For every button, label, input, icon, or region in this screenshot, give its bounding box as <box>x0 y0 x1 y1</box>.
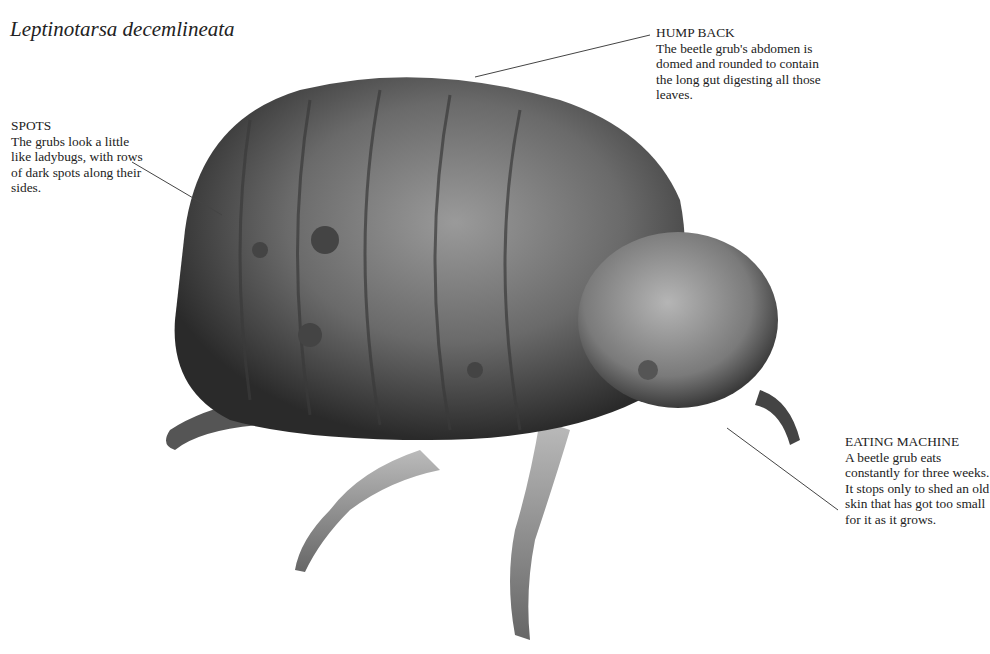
callout-body: The beetle grub's abdomen is domed and r… <box>656 41 826 103</box>
callout-body: The grubs look a little like ladybugs, w… <box>11 134 151 196</box>
callout-heading: HUMP BACK <box>656 25 826 41</box>
callout-heading: SPOTS <box>11 118 151 134</box>
callout-eating-machine: EATING MACHINE A beetle grub eats consta… <box>845 434 990 527</box>
callout-spots: SPOTS The grubs look a little like ladyb… <box>11 118 151 196</box>
callout-body: A beetle grub eats constantly for three … <box>845 450 990 528</box>
callout-hump-back: HUMP BACK The beetle grub's abdomen is d… <box>656 25 826 103</box>
callout-heading: EATING MACHINE <box>845 434 990 450</box>
